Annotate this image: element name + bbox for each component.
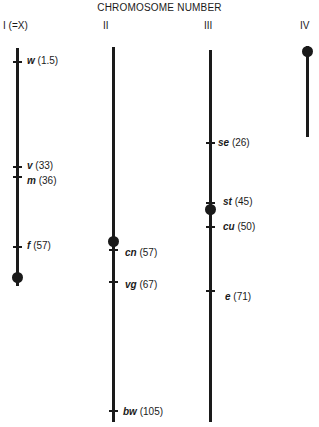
centromere-1 <box>12 272 23 283</box>
chromosome-label-4: IV <box>300 20 309 31</box>
tick-st <box>206 202 215 204</box>
tick-vg <box>109 281 118 283</box>
gene-v: v (33) <box>27 161 53 171</box>
chromosome-label-3: III <box>204 20 212 31</box>
gene-se: se (26) <box>218 138 250 148</box>
tick-m <box>13 176 22 178</box>
tick-v <box>13 166 22 168</box>
diagram-title: CHROMOSOME NUMBER <box>0 2 319 13</box>
tick-e <box>206 290 215 292</box>
tick-cn <box>109 249 118 251</box>
chromosome-3-line <box>209 50 212 422</box>
tick-w <box>13 61 22 63</box>
centromere-4 <box>302 46 313 57</box>
tick-f <box>13 246 22 248</box>
gene-e: e (71) <box>225 292 251 302</box>
tick-se <box>206 142 215 144</box>
chromosome-2-line <box>112 47 115 422</box>
chromosome-label-1: I (=X) <box>3 20 28 31</box>
gene-m: m (36) <box>27 176 56 186</box>
chromosome-label-2: II <box>103 20 109 31</box>
centromere-3 <box>205 204 216 215</box>
gene-cu: cu (50) <box>223 222 255 232</box>
chromosome-4-line <box>306 46 309 137</box>
centromere-2 <box>108 236 119 247</box>
gene-vg: vg (67) <box>125 280 157 290</box>
gene-bw: bw (105) <box>123 407 163 417</box>
gene-w: w (1.5) <box>27 56 58 66</box>
tick-bw <box>109 410 118 412</box>
gene-f: f (57) <box>27 241 51 251</box>
gene-cn: cn (57) <box>125 248 157 258</box>
gene-st: st (45) <box>223 197 252 207</box>
tick-cu <box>206 226 215 228</box>
